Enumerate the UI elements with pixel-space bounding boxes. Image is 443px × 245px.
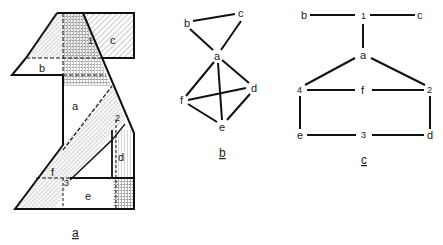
- node-f-label: f: [180, 94, 184, 106]
- edge-a-2: [371, 58, 425, 85]
- node-c-label: c: [238, 7, 244, 19]
- node-a-label: a: [214, 50, 221, 62]
- node-d-label: d: [251, 82, 257, 94]
- panel-c-labels: b 1 c a 4 f 2 e 3 d c: [297, 9, 433, 167]
- panel-b: [186, 14, 250, 122]
- region-label-3: 3: [64, 178, 69, 188]
- region-label-a: a: [72, 100, 79, 112]
- edge-a-4: [305, 58, 355, 85]
- node-c-2-label: 2: [427, 85, 432, 95]
- region-label-c: c: [110, 34, 116, 46]
- node-c-4-label: 4: [297, 85, 302, 95]
- figure-canvas: c 1 b a 2 d f 3 e a b c a d f e b: [0, 0, 443, 245]
- panel-a-caption: a: [72, 226, 79, 240]
- region-label-2: 2: [115, 113, 120, 123]
- edge-f-d: [188, 88, 246, 100]
- node-c-e-label: e: [297, 129, 303, 141]
- panel-a: c 1 b a 2 d f 3 e a: [12, 13, 134, 240]
- edge-d-e: [227, 94, 250, 120]
- node-e-label: e: [219, 121, 225, 133]
- edge-a-d: [222, 60, 249, 83]
- region-label-d: d: [118, 151, 124, 163]
- outline-top: [12, 58, 63, 75]
- edge-c-a: [221, 21, 241, 50]
- panel-c: [300, 15, 430, 135]
- node-c-c-label: c: [417, 9, 423, 21]
- edge-a-e: [218, 63, 222, 120]
- panel-c-caption: c: [361, 153, 367, 167]
- node-c-f-label: f: [361, 84, 365, 96]
- node-c-b-label: b: [301, 9, 307, 21]
- node-c-3-label: 3: [361, 130, 366, 140]
- edge-f-e: [188, 104, 217, 122]
- node-b-label: b: [184, 17, 190, 29]
- node-c-1-label: 1: [361, 11, 366, 21]
- edge-b-a: [190, 29, 213, 50]
- region-label-1: 1: [88, 36, 93, 46]
- region-label-e: e: [85, 190, 91, 202]
- panel-b-caption: b: [219, 146, 226, 160]
- node-c-a-label: a: [360, 49, 367, 61]
- node-c-d-label: d: [427, 129, 433, 141]
- edge-b-c: [193, 14, 235, 21]
- region-label-b: b: [39, 62, 45, 74]
- edge-a-f: [186, 62, 214, 96]
- diagonal-band: [15, 86, 125, 209]
- region-a-shade: [63, 75, 113, 88]
